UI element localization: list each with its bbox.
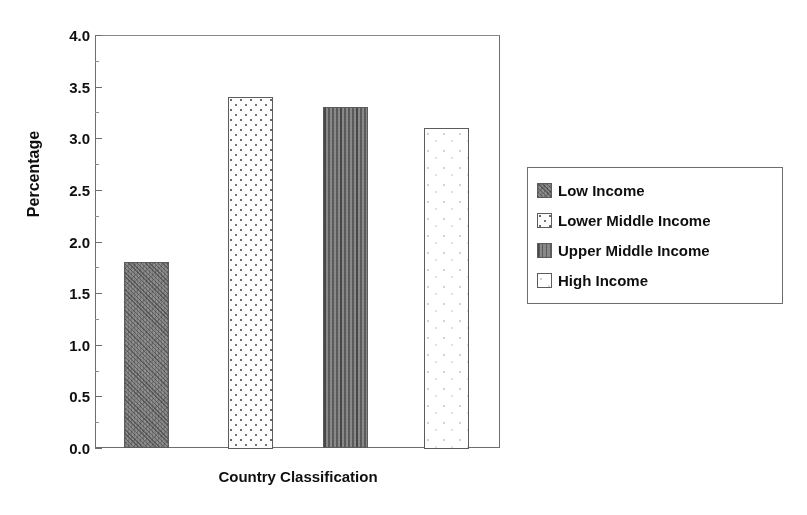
bar-chart-figure: Percentage 4.0 3.5 3.0 2.5 2.0 1.5 1.0 0… — [0, 0, 807, 515]
legend-label: Lower Middle Income — [558, 213, 711, 228]
legend-item-low-income: Low Income — [537, 175, 774, 205]
legend-swatch-icon — [537, 213, 552, 228]
bar-high-income — [424, 128, 469, 449]
legend-label: Upper Middle Income — [558, 243, 710, 258]
legend-item-upper-middle-income: Upper Middle Income — [537, 235, 774, 265]
bar-upper-middle-income — [323, 107, 368, 448]
legend-swatch-icon — [537, 243, 552, 258]
bar-lower-middle-income — [228, 97, 273, 449]
legend-label: High Income — [558, 273, 648, 288]
legend-item-lower-middle-income: Lower Middle Income — [537, 205, 774, 235]
legend-swatch-icon — [537, 183, 552, 198]
legend: Low Income Lower Middle Income Upper Mid… — [527, 167, 783, 304]
legend-label: Low Income — [558, 183, 645, 198]
legend-item-high-income: High Income — [537, 265, 774, 295]
bar-low-income — [124, 262, 169, 448]
x-axis-title: Country Classification — [95, 468, 501, 485]
legend-swatch-icon — [537, 273, 552, 288]
